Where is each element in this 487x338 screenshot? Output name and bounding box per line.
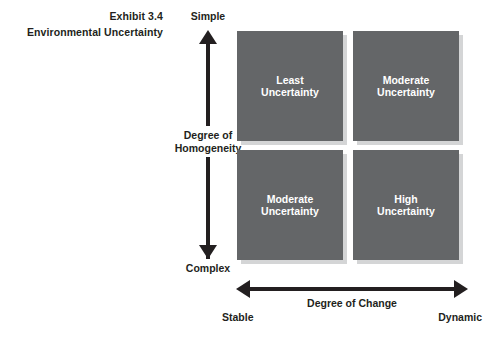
quadrant-top-right-line1: Moderate [377, 74, 435, 87]
quadrant-top-right-line2: Uncertainty [377, 86, 435, 99]
axis-label-complex: Complex [164, 262, 252, 274]
quadrant-top-left-line2: Uncertainty [261, 86, 319, 99]
horizontal-axis-title: Degree of Change [236, 297, 468, 309]
quadrant-bottom-right-line1: High [377, 193, 435, 206]
quadrant-top-right-label: Moderate Uncertainty [377, 74, 435, 99]
quadrant-bottom-left-line1: Moderate [261, 193, 319, 206]
axis-label-simple: Simple [164, 10, 252, 22]
quadrant-top-left: Least Uncertainty [237, 31, 343, 141]
quadrant-matrix: Least Uncertainty Moderate Uncertainty M… [237, 31, 471, 260]
quadrant-top-right: Moderate Uncertainty [353, 31, 459, 141]
quadrant-bottom-left-line2: Uncertainty [261, 205, 319, 218]
quadrant-top-left-line1: Least [261, 74, 319, 87]
vertical-axis: Simple Degree of Homogeneity Complex [186, 30, 230, 290]
quadrant-bottom-right-label: High Uncertainty [377, 193, 435, 218]
quadrant-top-left-label: Least Uncertainty [261, 74, 319, 99]
exhibit-title: Environmental Uncertainty [0, 24, 163, 40]
arrow-right-icon [454, 280, 468, 298]
exhibit-number: Exhibit 3.4 [0, 8, 163, 24]
quadrant-bottom-left: Moderate Uncertainty [237, 150, 343, 260]
quadrant-bottom-right: High Uncertainty [353, 150, 459, 260]
axis-label-dynamic: Dynamic [377, 311, 482, 323]
axis-label-stable: Stable [222, 311, 254, 323]
quadrant-bottom-left-label: Moderate Uncertainty [261, 193, 319, 218]
horizontal-axis-line [248, 287, 456, 291]
arrow-down-icon [199, 245, 217, 259]
exhibit-title-block: Exhibit 3.4 Environmental Uncertainty [0, 8, 163, 40]
quadrant-bottom-right-line2: Uncertainty [377, 205, 435, 218]
horizontal-axis: Degree of Change [236, 278, 468, 308]
